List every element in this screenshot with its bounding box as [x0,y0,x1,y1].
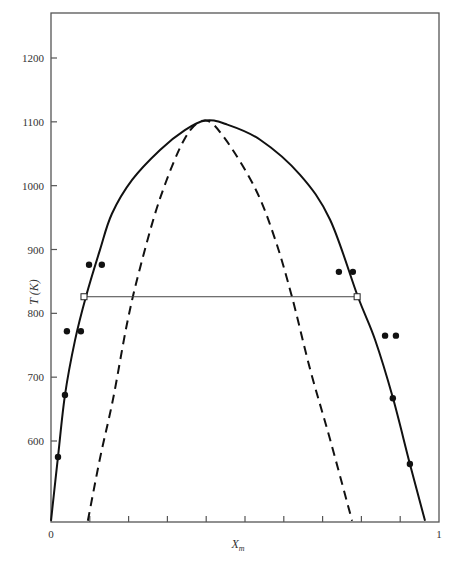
data-point [55,454,61,460]
y-tick-label: 1100 [22,116,44,128]
data-point [99,262,105,268]
x-tick-label-0: 0 [48,528,54,540]
y-tick-label: 1200 [22,52,45,64]
data-point [86,262,92,268]
y-tick-label: 900 [28,244,45,256]
y-tick-label: 1000 [22,180,45,192]
spinodal-curve [88,121,352,521]
series-layer [51,120,425,521]
data-point [382,332,388,338]
plot-frame [51,13,439,522]
data-point [390,395,396,401]
phase-diagram-chart: 600700800900100011001200 T (K) Xm 0 1 [0,0,453,562]
data-point [393,332,399,338]
tie-line-endpoint-marker [354,294,360,300]
data-point [78,328,84,334]
y-tick-label: 600 [28,435,45,447]
y-tick-label: 700 [28,371,45,383]
x-tick-label-1: 1 [436,528,442,540]
y-axis-label: T (K) [27,279,41,304]
y-axis: 600700800900100011001200 [22,52,57,447]
data-point [407,461,413,467]
y-tick-label: 800 [28,307,45,319]
data-point [350,269,356,275]
data-point [62,392,68,398]
data-point [64,328,70,334]
binodal-curve [51,120,425,521]
data-point [336,269,342,275]
x-axis-label: Xm [230,537,244,553]
x-axis [90,516,400,522]
tie-line-endpoint-marker [81,294,87,300]
